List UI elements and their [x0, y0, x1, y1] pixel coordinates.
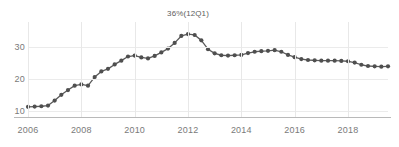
data-point-marker	[33, 104, 37, 108]
peak-annotation-label: 36%(12Q1)	[167, 9, 209, 18]
gridline-vertical	[135, 22, 136, 117]
x-axis-tick-label: 2012	[178, 125, 199, 135]
data-point-marker	[39, 104, 43, 108]
data-point-marker	[353, 60, 357, 64]
x-axis-tick-label: 2010	[124, 125, 145, 135]
data-point-marker	[139, 55, 143, 59]
gridline-vertical	[188, 22, 189, 117]
data-point-marker	[159, 50, 163, 54]
data-point-marker	[46, 104, 50, 108]
x-axis-tick-labels: 2006200820102012201420162018	[28, 121, 388, 141]
gridline-vertical	[81, 22, 82, 117]
gridline-vertical	[28, 22, 29, 117]
y-axis-tick-label: 20	[15, 74, 25, 84]
data-point-marker	[273, 48, 277, 52]
plot-area	[28, 22, 388, 117]
data-point-marker	[193, 33, 197, 37]
data-point-marker	[119, 59, 123, 63]
data-point-marker	[66, 88, 70, 92]
y-axis-tick-label: 30	[15, 42, 25, 52]
data-point-marker	[299, 57, 303, 61]
data-point-marker	[306, 58, 310, 62]
data-point-marker	[246, 51, 250, 55]
data-point-marker	[213, 51, 217, 55]
x-axis-baseline	[14, 117, 391, 118]
data-point-marker	[219, 53, 223, 57]
data-point-marker	[373, 64, 377, 68]
chart-root: 102030 2006200820102012201420162018 36%(…	[0, 0, 399, 147]
data-point-marker	[326, 59, 330, 63]
data-point-marker	[359, 63, 363, 67]
data-point-marker	[153, 54, 157, 58]
data-point-marker	[113, 62, 117, 66]
data-point-marker	[266, 49, 270, 53]
data-point-marker	[53, 98, 57, 102]
data-point-marker	[86, 84, 90, 88]
data-point-marker	[173, 41, 177, 45]
data-point-marker	[259, 49, 263, 53]
data-point-marker	[319, 59, 323, 63]
data-point-marker	[286, 53, 290, 57]
data-point-marker	[59, 93, 63, 97]
x-axis-tick-label: 2008	[71, 125, 92, 135]
data-point-marker	[233, 53, 237, 57]
data-point-marker	[73, 84, 77, 88]
data-point-marker	[279, 50, 283, 54]
data-point-marker	[379, 65, 383, 69]
x-axis-tick-label: 2006	[18, 125, 39, 135]
data-point-marker	[386, 64, 390, 68]
data-point-marker	[179, 34, 183, 38]
gridline-vertical	[348, 22, 349, 117]
data-point-marker	[313, 58, 317, 62]
gridline-vertical	[295, 22, 296, 117]
y-axis-tick-label: 10	[15, 106, 25, 116]
data-point-marker	[199, 38, 203, 42]
data-point-marker	[366, 64, 370, 68]
data-point-marker	[99, 69, 103, 73]
data-point-marker	[253, 50, 257, 54]
x-axis-tick-label: 2018	[338, 125, 359, 135]
x-axis-tick-label: 2016	[284, 125, 305, 135]
gridline-vertical	[241, 22, 242, 117]
data-point-marker	[146, 56, 150, 60]
data-point-marker	[226, 53, 230, 57]
data-point-marker	[333, 59, 337, 63]
y-axis-tick-labels: 102030	[0, 22, 25, 117]
x-axis-tick-label: 2014	[231, 125, 252, 135]
data-point-marker	[339, 59, 343, 63]
data-point-marker	[106, 67, 110, 71]
data-point-marker	[126, 54, 130, 58]
